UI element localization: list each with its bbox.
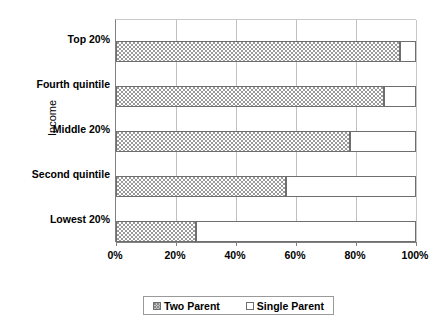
x-label-0: 0% <box>85 249 145 261</box>
plot-bottom-axis <box>116 242 416 243</box>
chart-legend: Two Parent Single Parent <box>143 296 334 315</box>
legend-swatch-two-parent-icon <box>153 302 161 310</box>
legend-swatch-single-parent-icon <box>246 302 254 310</box>
x-label-80: 80% <box>325 249 385 261</box>
xtick-60 <box>296 242 297 246</box>
plot-right-border <box>416 20 417 242</box>
category-label-second-quintile: Second quintile <box>2 168 110 180</box>
xtick-40 <box>236 242 237 246</box>
x-label-20: 20% <box>145 249 205 261</box>
plot-area <box>115 19 416 242</box>
value-axis-labels: 0% 20% 40% 60% 80% 100% <box>115 249 415 265</box>
category-label-lowest-20: Lowest 20% <box>2 213 110 225</box>
category-label-top-20: Top 20% <box>2 33 110 45</box>
bar-segment-single-parent <box>286 176 416 197</box>
bar-segment-two-parent <box>116 176 286 197</box>
bar-segment-two-parent <box>116 86 384 107</box>
bar-segment-single-parent <box>400 41 416 62</box>
bar-chart: Income Top 20% Fourth quintile Middle 20… <box>0 0 447 323</box>
x-label-60: 60% <box>265 249 325 261</box>
bar-segment-single-parent <box>350 131 416 152</box>
xtick-0 <box>116 242 117 246</box>
legend-label-two-parent: Two Parent <box>164 300 220 312</box>
legend-item-single-parent: Single Parent <box>246 300 324 312</box>
x-label-100: 100% <box>385 249 445 261</box>
xtick-20 <box>176 242 177 246</box>
bar-segment-two-parent <box>116 131 350 152</box>
legend-label-single-parent: Single Parent <box>257 300 324 312</box>
xtick-80 <box>356 242 357 246</box>
bar-segment-two-parent <box>116 41 400 62</box>
x-label-40: 40% <box>205 249 265 261</box>
category-label-middle-20: Middle 20% <box>2 123 110 135</box>
category-label-fourth-quintile: Fourth quintile <box>2 78 110 90</box>
bar-segment-single-parent <box>384 86 416 107</box>
xtick-100 <box>416 242 417 246</box>
bar-segment-two-parent <box>116 221 196 242</box>
bar-segment-single-parent <box>196 221 416 242</box>
category-axis-labels: Top 20% Fourth quintile Middle 20% Secon… <box>0 0 110 323</box>
legend-item-two-parent: Two Parent <box>153 300 220 312</box>
